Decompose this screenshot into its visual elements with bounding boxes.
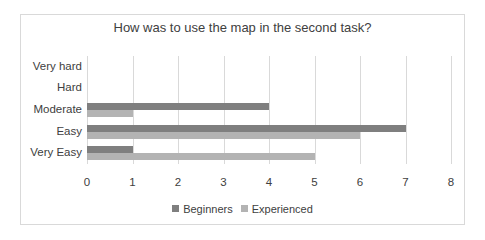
bar-experienced <box>87 110 133 117</box>
x-tick-label: 2 <box>168 176 188 188</box>
x-tick-label: 3 <box>214 176 234 188</box>
y-category-label: Easy <box>56 125 82 137</box>
y-category-label: Moderate <box>33 103 82 115</box>
legend-swatch-icon <box>241 205 248 212</box>
x-tick-label: 6 <box>350 176 370 188</box>
legend-label: Beginners <box>183 203 233 215</box>
legend-item: Experienced <box>241 203 313 215</box>
gridline <box>224 56 225 164</box>
legend-swatch-icon <box>172 205 179 212</box>
chart-legend: BeginnersExperienced <box>0 202 485 215</box>
plot-area <box>87 56 451 164</box>
gridline <box>315 56 316 164</box>
y-category-label: Very Easy <box>30 146 82 158</box>
bar-beginners <box>87 146 133 153</box>
x-tick-label: 0 <box>77 176 97 188</box>
bar-experienced <box>87 153 315 160</box>
x-tick-label: 7 <box>396 176 416 188</box>
y-category-label: Hard <box>57 81 82 93</box>
gridline <box>451 56 452 164</box>
gridline <box>269 56 270 164</box>
gridline <box>178 56 179 164</box>
y-category-label: Very hard <box>33 60 82 72</box>
bar-beginners <box>87 103 269 110</box>
gridline <box>133 56 134 164</box>
legend-label: Experienced <box>252 203 313 215</box>
gridline <box>406 56 407 164</box>
x-tick-label: 8 <box>441 176 461 188</box>
bar-experienced <box>87 132 360 139</box>
gridline <box>360 56 361 164</box>
x-tick-label: 1 <box>123 176 143 188</box>
chart-title: How was to use the map in the second tas… <box>0 20 485 35</box>
x-tick-label: 4 <box>259 176 279 188</box>
legend-item: Beginners <box>172 203 233 215</box>
x-tick-label: 5 <box>305 176 325 188</box>
bar-beginners <box>87 125 406 132</box>
